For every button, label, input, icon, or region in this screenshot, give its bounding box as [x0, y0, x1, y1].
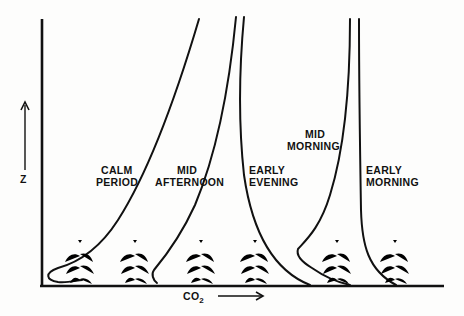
label-early-evening: EARLY EVENING: [249, 164, 298, 188]
svg-text:PERIOD: PERIOD: [96, 176, 138, 188]
label-calm-period: CALM PERIOD: [96, 164, 138, 188]
svg-text:EVENING: EVENING: [249, 176, 298, 188]
svg-text:EARLY: EARLY: [249, 164, 285, 176]
svg-text:MORNING: MORNING: [287, 140, 340, 152]
co2-profile-diagram: Z CO2 CALM PERIOD MID AFTERNOON EARLY EV…: [0, 0, 464, 316]
curve-mid-morning: [298, 19, 350, 285]
corn-plant-icon: [240, 240, 269, 286]
corn-plant-icon: [322, 240, 351, 286]
svg-text:CALM: CALM: [101, 164, 133, 176]
co2-axis-label: CO2: [183, 290, 204, 305]
label-mid-morning: MID MORNING: [287, 128, 340, 152]
label-mid-afternoon: MID AFTERNOON: [155, 164, 224, 188]
svg-text:MORNING: MORNING: [366, 176, 419, 188]
curve-early-morning: [359, 19, 396, 285]
curve-calm-period: [48, 19, 199, 282]
z-axis-label: Z: [20, 173, 27, 185]
svg-text:AFTERNOON: AFTERNOON: [155, 176, 224, 188]
curve-mid-afternoon: [153, 17, 236, 283]
co2-axis-arrow-icon: [218, 292, 263, 300]
svg-text:MID: MID: [305, 128, 325, 140]
corn-plant-icon: [120, 240, 149, 286]
corn-plant-icon: [186, 240, 215, 286]
label-early-morning: EARLY MORNING: [366, 164, 419, 188]
z-axis-arrow-icon: [21, 102, 29, 170]
corn-plant-icon: [380, 240, 409, 286]
svg-text:MID: MID: [177, 164, 197, 176]
svg-text:EARLY: EARLY: [366, 164, 402, 176]
